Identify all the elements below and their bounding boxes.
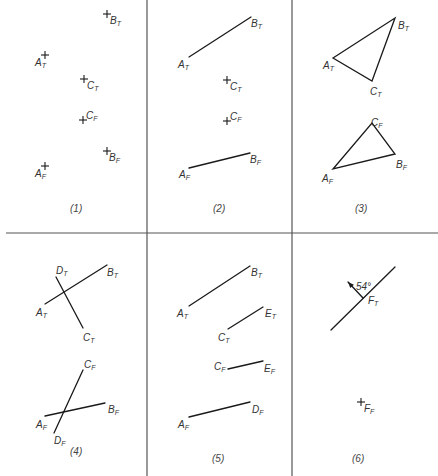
panel-caption: (6) bbox=[352, 453, 364, 464]
line-segment bbox=[189, 402, 250, 417]
point-label-ft: FT bbox=[368, 295, 379, 307]
panel-caption: (4) bbox=[70, 446, 82, 457]
point-label-bt: BT bbox=[110, 15, 122, 27]
line-segment bbox=[189, 266, 250, 306]
point-label-df: DF bbox=[252, 404, 264, 416]
panel-3: ATBTCTCFBFAF(3) bbox=[321, 18, 410, 214]
line-segment bbox=[189, 17, 251, 57]
grid-lines bbox=[6, 0, 438, 476]
point-label-at: AT bbox=[176, 308, 189, 320]
line-segment bbox=[228, 361, 263, 369]
triangle bbox=[333, 123, 395, 169]
point-label-cf: CF bbox=[371, 117, 383, 129]
point-label-bt: BT bbox=[107, 267, 119, 279]
panel-caption: (1) bbox=[70, 203, 82, 214]
point-cross-icon bbox=[41, 51, 49, 59]
line-segment bbox=[228, 307, 263, 329]
point-label-et: ET bbox=[265, 308, 277, 320]
point-label-af: AF bbox=[321, 173, 334, 185]
point-label-cf: CF bbox=[86, 110, 98, 122]
point-label-ct: CT bbox=[83, 332, 95, 344]
point-label-dt: DT bbox=[56, 265, 68, 277]
point-label-ef: EF bbox=[264, 363, 276, 375]
point-label-bt: BT bbox=[251, 267, 263, 279]
panel-1: ATBTCTCFBFAF(1) bbox=[34, 10, 122, 214]
line-segment bbox=[45, 265, 107, 304]
line-segment bbox=[45, 403, 105, 416]
triangle bbox=[333, 18, 395, 81]
panel-6: FTFF54°(6) bbox=[331, 267, 395, 464]
point-label-at: AT bbox=[322, 60, 335, 72]
panel-caption: (3) bbox=[355, 203, 367, 214]
point-label-ct: CT bbox=[230, 81, 242, 93]
orthographic-projection-drawing: ATBTCTCFBFAF(1)CTCFATBTAFBF(2)ATBTCTCFBF… bbox=[0, 0, 438, 476]
point-label-af: AF bbox=[177, 419, 190, 431]
panel-caption: (5) bbox=[212, 453, 224, 464]
point-label-at: AT bbox=[177, 59, 190, 71]
line-segment bbox=[189, 153, 250, 168]
point-label-bf: BF bbox=[109, 152, 121, 164]
line-segment bbox=[56, 277, 83, 328]
point-label-ct: CT bbox=[218, 332, 230, 344]
point-label-cf: CF bbox=[230, 111, 242, 123]
line-segment bbox=[54, 370, 83, 433]
panel-caption: (2) bbox=[213, 203, 225, 214]
point-label-at: AT bbox=[35, 307, 48, 319]
panels: ATBTCTCFBFAF(1)CTCFATBTAFBF(2)ATBTCTCFBF… bbox=[34, 10, 410, 464]
point-label-bf: BF bbox=[396, 159, 408, 171]
point-label-df: DF bbox=[54, 435, 66, 447]
point-label-af: AF bbox=[35, 419, 48, 431]
point-label-cf: CF bbox=[84, 359, 96, 371]
point-label-bf: BF bbox=[250, 154, 262, 166]
point-label-bt: BT bbox=[398, 20, 410, 32]
angle-label: 54° bbox=[356, 281, 371, 292]
panel-2: CTCFATBTAFBF(2) bbox=[177, 17, 263, 214]
panel-4: DTBTATCTCFBFAFDF(4) bbox=[35, 265, 120, 457]
point-label-bt: BT bbox=[251, 18, 263, 30]
point-label-ct: CT bbox=[87, 80, 99, 92]
point-label-af: AF bbox=[178, 169, 191, 181]
point-label-bf: BF bbox=[108, 404, 120, 416]
point-cross-icon bbox=[41, 162, 49, 170]
panel-5: BTATETCTCFEFDFAF(5) bbox=[176, 266, 277, 464]
point-label-ct: CT bbox=[370, 86, 382, 98]
point-label-cf: CF bbox=[214, 361, 226, 373]
point-label-ff: FF bbox=[364, 403, 375, 415]
